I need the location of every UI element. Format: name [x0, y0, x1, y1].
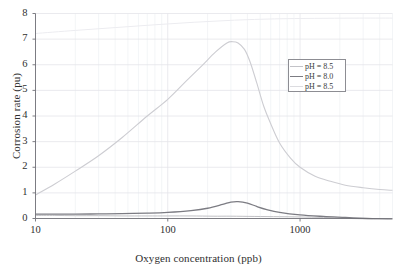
legend-item-2[interactable]: pH = 8.5: [289, 81, 345, 91]
y-tick-label: 7: [8, 32, 28, 43]
series-line-1: [36, 202, 393, 220]
legend-label: pH = 8.5: [305, 82, 333, 91]
legend-line-swatch: [290, 66, 303, 67]
y-tick-label: 1: [8, 186, 28, 197]
y-tick-label: 0: [8, 212, 28, 223]
chart-legend[interactable]: pH = 8.5pH = 8.0pH = 8.5: [288, 59, 346, 92]
x-axis-title: Oxygen concentration (ppb): [0, 252, 397, 264]
series-line-0: [36, 215, 393, 220]
legend-item-1[interactable]: pH = 8.0: [289, 71, 345, 81]
legend-line-swatch: [290, 86, 303, 87]
x-tick-label: 1000: [280, 224, 320, 235]
gridlines: [36, 14, 393, 219]
x-tick-label: 10: [16, 224, 56, 235]
legend-item-0[interactable]: pH = 8.5: [289, 61, 345, 71]
chart-plot-area: [0, 0, 397, 273]
y-axis-title: Corrosion rate (pu): [10, 46, 22, 186]
legend-line-swatch: [290, 76, 303, 77]
chart-figure: 012345678 101001000 Corrosion rate (pu) …: [0, 0, 397, 273]
series-line-3: [36, 18, 393, 33]
legend-label: pH = 8.0: [305, 72, 333, 81]
legend-label: pH = 8.5: [305, 62, 333, 71]
y-tick-label: 8: [8, 7, 28, 18]
data-series-layer: [36, 18, 393, 220]
x-tick-label: 100: [148, 224, 188, 235]
